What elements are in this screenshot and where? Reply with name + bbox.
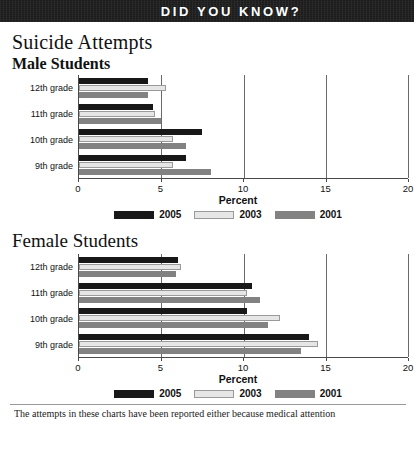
bar-2005-11th-grade	[79, 104, 153, 110]
axis-tick-label: 20	[403, 183, 414, 194]
bar-2005-9th-grade	[79, 155, 186, 161]
bar-2001-11th-grade	[79, 297, 260, 303]
axis-tick-label: 0	[75, 183, 80, 194]
female-category-labels: 12th grade11th grade10th grade9th grade	[8, 254, 78, 358]
category-label: 10th grade	[8, 136, 73, 145]
male-category-labels: 12th grade11th grade10th grade9th grade	[8, 75, 78, 179]
axis-tick	[408, 179, 409, 182]
legend-swatch-2001	[275, 390, 315, 398]
category-label: 11th grade	[8, 289, 73, 298]
legend-swatch-2005	[114, 211, 154, 219]
legend-label: 2003	[239, 209, 261, 220]
gridline	[408, 254, 409, 357]
male-legend: 200520032001	[48, 209, 408, 220]
male-plot-row: 12th grade11th grade10th grade9th grade	[8, 75, 408, 179]
bar-group	[79, 334, 408, 354]
legend-item-2005: 2005	[114, 209, 181, 220]
category-label: 12th grade	[8, 263, 73, 272]
bar-2003-9th-grade	[79, 162, 173, 168]
legend-label: 2001	[320, 388, 342, 399]
bar-2003-12th-grade	[79, 264, 181, 270]
axis-tick	[326, 358, 327, 361]
bar-2005-12th-grade	[79, 257, 178, 263]
bar-2001-12th-grade	[79, 92, 148, 98]
axis-tick-label: 0	[75, 362, 80, 373]
gridline	[408, 75, 409, 178]
male-axis-scale: 05101520	[78, 179, 408, 197]
chart-caption: The attempts in these charts have been r…	[14, 408, 402, 421]
legend-swatch-2005	[114, 390, 154, 398]
bar-2005-10th-grade	[79, 129, 202, 135]
bar-group	[79, 257, 408, 277]
bar-2001-10th-grade	[79, 143, 186, 149]
axis-tick-label: 20	[403, 362, 414, 373]
legend-item-2005: 2005	[114, 388, 181, 399]
banner-title: DID YOU KNOW?	[161, 4, 301, 19]
male-students-section: Suicide Attempts Male Students 12th grad…	[8, 31, 408, 220]
bar-group	[79, 308, 408, 328]
bar-2003-12th-grade	[79, 85, 166, 91]
legend-item-2003: 2003	[194, 388, 261, 399]
axis-tick-label: 10	[238, 362, 249, 373]
axis-tick	[78, 179, 79, 182]
male-x-axis: 05101520	[8, 179, 408, 197]
category-label: 11th grade	[8, 110, 73, 119]
bar-group	[79, 104, 408, 124]
bar-2003-10th-grade	[79, 136, 173, 142]
bar-2003-9th-grade	[79, 341, 318, 347]
axis-tick-label: 15	[320, 362, 331, 373]
legend-item-2001: 2001	[275, 209, 342, 220]
axis-tick-label: 15	[320, 183, 331, 194]
female-plot-row: 12th grade11th grade10th grade9th grade	[8, 254, 408, 358]
page-title: Suicide Attempts	[12, 31, 408, 54]
axis-tick	[78, 358, 79, 361]
axis-tick	[161, 179, 162, 182]
bar-2001-12th-grade	[79, 271, 176, 277]
female-x-axis: 05101520	[8, 358, 408, 376]
male-students-subtitle: Male Students	[12, 55, 408, 73]
axis-tick	[161, 358, 162, 361]
female-plot-area	[78, 254, 408, 358]
bar-group	[79, 129, 408, 149]
female-students-chart: 12th grade11th grade10th grade9th grade …	[8, 254, 408, 399]
category-label: 9th grade	[8, 162, 73, 171]
bar-group	[79, 155, 408, 175]
bar-group	[79, 78, 408, 98]
did-you-know-banner: DID YOU KNOW?	[0, 0, 414, 22]
bar-2005-9th-grade	[79, 334, 309, 340]
female-bar-groups	[79, 254, 408, 357]
male-students-chart: 12th grade11th grade10th grade9th grade …	[8, 75, 408, 220]
bar-group	[79, 283, 408, 303]
category-label: 10th grade	[8, 315, 73, 324]
axis-tick	[408, 358, 409, 361]
axis-tick-label: 5	[158, 183, 163, 194]
legend-item-2001: 2001	[275, 388, 342, 399]
bar-2005-11th-grade	[79, 283, 252, 289]
caption-divider	[10, 404, 406, 405]
male-bar-groups	[79, 75, 408, 178]
bar-2005-10th-grade	[79, 308, 247, 314]
legend-label: 2001	[320, 209, 342, 220]
legend-swatch-2003	[194, 390, 234, 398]
legend-item-2003: 2003	[194, 209, 261, 220]
bar-2003-11th-grade	[79, 111, 155, 117]
category-label: 9th grade	[8, 341, 73, 350]
axis-tick	[243, 358, 244, 361]
legend-label: 2003	[239, 388, 261, 399]
bar-2001-9th-grade	[79, 348, 301, 354]
female-students-subtitle: Female Students	[12, 230, 408, 252]
bar-2001-10th-grade	[79, 322, 268, 328]
legend-swatch-2001	[275, 211, 315, 219]
bar-2001-9th-grade	[79, 169, 211, 175]
bar-2005-12th-grade	[79, 78, 148, 84]
legend-swatch-2003	[194, 211, 234, 219]
category-label: 12th grade	[8, 84, 73, 93]
female-axis-spacer	[8, 358, 78, 376]
bar-2003-10th-grade	[79, 315, 280, 321]
legend-label: 2005	[159, 209, 181, 220]
legend-label: 2005	[159, 388, 181, 399]
female-legend: 200520032001	[48, 388, 408, 399]
bar-2003-11th-grade	[79, 290, 247, 296]
axis-tick-label: 5	[158, 362, 163, 373]
male-plot-area	[78, 75, 408, 179]
